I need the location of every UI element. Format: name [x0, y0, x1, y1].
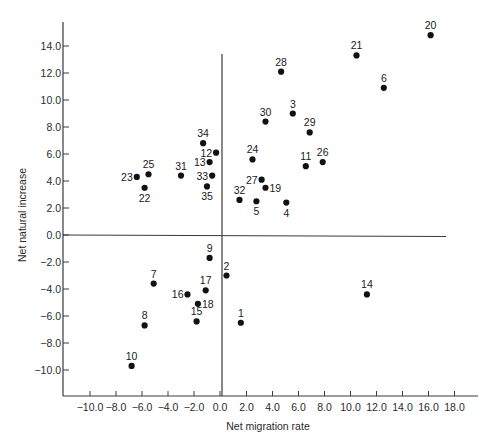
data-point: 31	[175, 160, 187, 179]
point-marker	[238, 320, 244, 326]
point-marker	[194, 318, 200, 324]
x-axis-title: Net migration rate	[226, 420, 310, 432]
y-tick-label: 2.0	[46, 202, 61, 214]
point-label: 19	[270, 182, 282, 194]
data-point: 21	[351, 39, 363, 58]
point-label: 11	[300, 150, 311, 162]
point-marker	[307, 129, 313, 135]
y-axis-title: Net natural increase	[16, 168, 28, 262]
point-marker	[428, 32, 434, 38]
data-point: 2	[223, 260, 229, 279]
point-marker	[253, 198, 259, 204]
x-tick-label: 8.0	[317, 401, 332, 413]
point-marker	[178, 173, 184, 179]
data-points: 1234567891011121314151617181920212223242…	[121, 19, 436, 369]
x-tick-label: 16.0	[418, 401, 439, 413]
data-point: 33	[197, 170, 216, 182]
point-label: 14	[361, 278, 373, 290]
point-marker	[184, 291, 190, 297]
y-tick-label: 8.0	[46, 121, 61, 133]
point-marker	[209, 173, 215, 179]
x-tick-label: 0.0	[213, 401, 228, 413]
point-marker	[200, 140, 206, 146]
point-marker	[151, 281, 157, 287]
horizontal-zero-line	[63, 235, 446, 237]
point-marker	[236, 197, 242, 203]
data-point: 32	[234, 184, 246, 203]
point-marker	[145, 171, 151, 177]
data-point: 5	[253, 198, 259, 217]
x-tick-label: 2.0	[239, 401, 254, 413]
y-tick-label: 12.0	[41, 67, 62, 79]
data-point: 20	[425, 19, 437, 38]
data-point: 8	[142, 309, 148, 328]
data-point: 11	[300, 150, 311, 169]
y-axis-ticks: 14.012.010.08.06.04.02.00.0−2.0−4.0−6.0−…	[34, 40, 69, 376]
point-marker	[353, 52, 359, 58]
point-label: 35	[201, 190, 213, 202]
y-tick-label: 0.0	[46, 229, 61, 241]
point-label: 29	[304, 116, 316, 128]
point-marker	[129, 363, 135, 369]
data-point: 6	[381, 72, 387, 91]
point-marker	[142, 322, 148, 328]
x-axis-ticks: −10.0−8.0−6.0−4.0−2.00.02.04.06.08.010.0…	[77, 391, 465, 413]
point-marker	[207, 159, 213, 165]
point-label: 1	[238, 307, 244, 319]
data-point: 22	[139, 185, 151, 204]
point-marker	[134, 174, 140, 180]
point-label: 31	[175, 160, 187, 172]
point-label: 3	[290, 98, 296, 110]
point-marker	[203, 287, 209, 293]
point-marker	[303, 163, 309, 169]
point-marker	[364, 291, 370, 297]
x-tick-label: 10.0	[340, 401, 361, 413]
point-marker	[381, 85, 387, 91]
point-label: 7	[151, 268, 157, 280]
point-label: 9	[207, 242, 213, 254]
x-tick-label: 6.0	[291, 401, 306, 413]
data-point: 35	[201, 183, 213, 202]
data-point: 4	[283, 200, 289, 219]
x-tick-label: 18.0	[444, 401, 465, 413]
y-tick-label: 10.0	[41, 94, 62, 106]
point-label: 22	[139, 192, 151, 204]
y-tick-label: 4.0	[46, 175, 61, 187]
point-label: 33	[197, 170, 209, 182]
data-point: 14	[361, 278, 373, 297]
y-tick-label: −8.0	[40, 337, 61, 349]
point-marker	[278, 69, 284, 75]
point-marker	[142, 185, 148, 191]
point-label: 30	[260, 106, 272, 118]
x-tick-label: −2.0	[184, 401, 205, 413]
y-tick-label: 6.0	[46, 148, 61, 160]
point-marker	[262, 185, 268, 191]
point-label: 24	[247, 143, 259, 155]
point-marker	[290, 110, 296, 116]
point-label: 2	[224, 260, 230, 272]
x-tick-label: 4.0	[265, 401, 280, 413]
data-point: 27	[246, 174, 265, 186]
axes	[63, 22, 478, 396]
point-label: 13	[194, 156, 206, 168]
data-point: 16	[172, 288, 191, 300]
point-label: 8	[142, 309, 148, 321]
point-label: 6	[381, 72, 387, 84]
data-point: 28	[275, 56, 287, 75]
point-label: 4	[283, 207, 289, 219]
y-tick-label: −2.0	[40, 256, 61, 268]
point-label: 23	[121, 171, 133, 183]
data-point: 34	[197, 127, 209, 146]
point-marker	[249, 156, 255, 162]
data-point: 7	[151, 268, 157, 287]
data-point: 23	[121, 171, 140, 183]
point-label: 28	[275, 56, 287, 68]
x-tick-label: −10.0	[77, 401, 104, 413]
point-label: 10	[126, 350, 138, 362]
point-marker	[262, 119, 268, 125]
point-marker	[195, 301, 201, 307]
point-marker	[283, 200, 289, 206]
point-label: 5	[253, 205, 259, 217]
point-label: 15	[191, 305, 203, 317]
point-label: 34	[197, 127, 209, 139]
